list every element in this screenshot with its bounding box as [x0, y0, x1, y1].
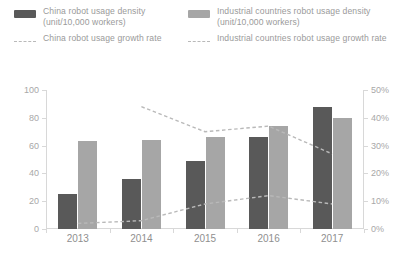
x-axis-tick — [46, 229, 47, 233]
line-china-growth-rate — [141, 107, 332, 154]
y-axis-right-tick — [364, 201, 368, 202]
legend-swatch-icon — [14, 10, 36, 19]
x-axis-tick-label: 2013 — [67, 233, 89, 244]
plot-area: 100806040200 50%40%30%20%10%0% 201320142… — [46, 90, 364, 229]
legend-column-right: Industrial countries robot usage density… — [188, 6, 398, 51]
y-axis-right-tick-label: 10% — [371, 196, 389, 206]
y-axis-right-tick-label: 20% — [371, 168, 389, 178]
legend-label: Industrial countries robot usage density… — [217, 6, 398, 28]
x-axis-tick — [300, 229, 301, 233]
y-axis-left-tick-label: 60 — [29, 141, 39, 151]
legend-dashed-line-icon — [14, 37, 36, 46]
legend-item-china-density: China robot usage density (unit/10,000 w… — [14, 6, 184, 28]
legend-dashed-line-icon — [188, 37, 210, 46]
x-axis-tick — [173, 229, 174, 233]
y-axis-right-tick — [364, 118, 368, 119]
growth-rate-lines-layer — [46, 90, 364, 229]
legend-item-industrial-density: Industrial countries robot usage density… — [188, 6, 398, 28]
legend-label: Industrial countries robot usage growth … — [217, 33, 387, 44]
y-axis-left-tick-label: 80 — [29, 113, 39, 123]
y-axis-left-tick-label: 20 — [29, 196, 39, 206]
x-axis-tick-label: 2017 — [321, 233, 343, 244]
y-axis-right-tick — [364, 146, 368, 147]
y-axis-right-tick — [364, 90, 368, 91]
x-axis-tick-label: 2014 — [130, 233, 152, 244]
y-axis-right-tick — [364, 173, 368, 174]
x-axis-tick-label: 2015 — [194, 233, 216, 244]
y-axis-left-tick-label: 100 — [24, 85, 39, 95]
legend-item-china-growth: China robot usage growth rate — [14, 33, 184, 46]
x-axis-tick — [364, 229, 365, 233]
y-axis-left-tick-label: 0 — [34, 224, 39, 234]
legend-column-left: China robot usage density (unit/10,000 w… — [14, 6, 184, 51]
chart-container: China robot usage density (unit/10,000 w… — [0, 0, 420, 266]
y-axis-right-tick-label: 0% — [371, 224, 384, 234]
x-axis-tick — [110, 229, 111, 233]
y-axis-right-tick-label: 50% — [371, 85, 389, 95]
y-axis-right-tick-label: 30% — [371, 141, 389, 151]
legend-item-industrial-growth: Industrial countries robot usage growth … — [188, 33, 398, 46]
legend-swatch-icon — [188, 10, 210, 19]
chart-legend: China robot usage density (unit/10,000 w… — [0, 6, 420, 78]
x-axis-tick-label: 2016 — [257, 233, 279, 244]
y-axis-right-tick-label: 40% — [371, 113, 389, 123]
y-axis-left-tick-label: 40 — [29, 168, 39, 178]
x-axis-tick — [237, 229, 238, 233]
legend-label: China robot usage density (unit/10,000 w… — [43, 6, 184, 28]
line-industrial-growth-rate — [78, 196, 332, 224]
legend-label: China robot usage growth rate — [43, 33, 162, 44]
